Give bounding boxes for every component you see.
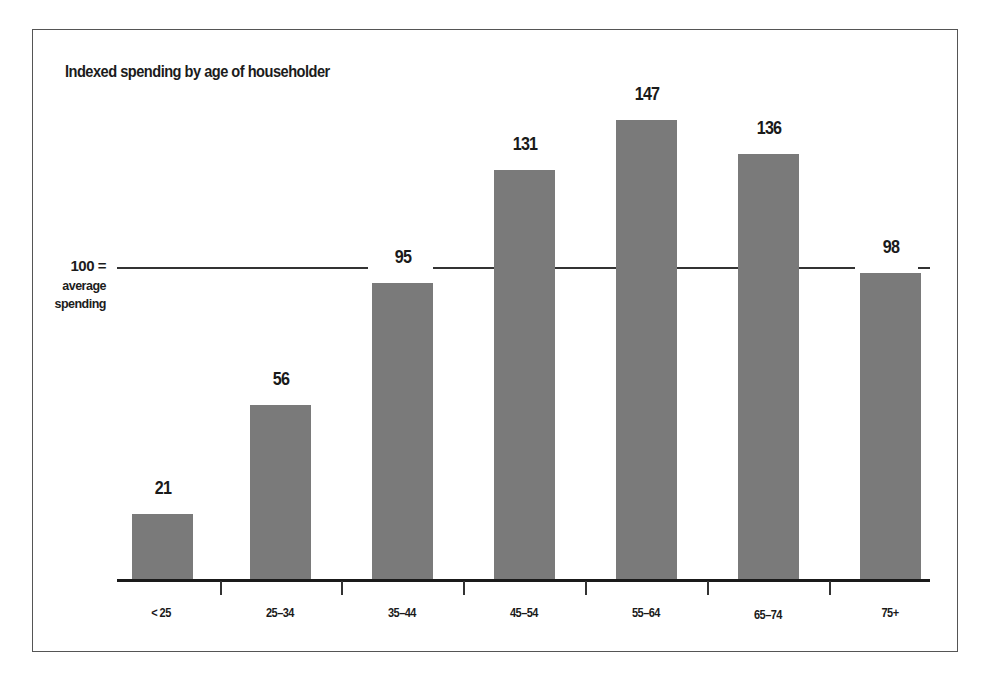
x-axis-tick — [707, 581, 709, 595]
bar-value-label: 95 — [369, 246, 437, 268]
reference-line-segment — [918, 267, 930, 269]
bar-value-label: 98 — [857, 236, 925, 258]
x-tick-label: 45–54 — [480, 606, 568, 620]
x-tick-label: < 25 — [117, 606, 205, 620]
x-axis-tick — [829, 581, 831, 595]
x-axis-tick — [341, 581, 343, 595]
reference-line-sublabel: spending — [40, 297, 106, 311]
bar — [860, 273, 921, 580]
bar-value-label: 21 — [129, 477, 197, 499]
x-tick-label: 25–34 — [236, 606, 324, 620]
reference-line-segment — [117, 267, 368, 269]
x-tick-label: 35–44 — [358, 606, 446, 620]
bar-value-label: 131 — [491, 133, 559, 155]
x-axis — [117, 579, 930, 582]
x-tick-label: 75+ — [846, 606, 934, 620]
x-tick-label: 65–74 — [724, 608, 812, 622]
bar — [372, 283, 433, 580]
x-axis-tick — [585, 581, 587, 595]
bar-value-label: 56 — [247, 368, 315, 390]
reference-line-label: 100 = — [40, 257, 106, 274]
bar — [616, 120, 677, 580]
bar — [250, 405, 311, 580]
bar — [132, 514, 193, 580]
bar-value-label: 147 — [613, 83, 681, 105]
x-tick-label: 55–64 — [602, 606, 690, 620]
bar — [494, 170, 555, 580]
bar — [738, 154, 799, 580]
reference-line-sublabel: average — [40, 279, 106, 293]
chart-title: Indexed spending by age of householder — [65, 62, 330, 82]
x-axis-tick — [463, 581, 465, 595]
bar-value-label: 136 — [735, 117, 803, 139]
x-axis-tick — [220, 581, 222, 595]
